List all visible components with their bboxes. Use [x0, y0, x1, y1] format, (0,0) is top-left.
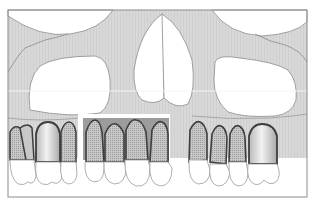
tooth-right-molar: [248, 124, 280, 185]
tooth-left-premolar-2: [61, 122, 77, 184]
dental-diagram: [0, 0, 323, 202]
tooth-right-2: [210, 126, 230, 186]
tooth-left-premolar-1: [36, 122, 62, 185]
tooth-right-1: [189, 122, 210, 184]
tooth-anterior-1: [85, 120, 104, 182]
tooth-anterior-2: [104, 124, 126, 184]
tooth-left-molar: [10, 125, 36, 185]
left-sinus: [29, 56, 110, 115]
tooth-right-3: [229, 126, 248, 186]
diagram-svg: [0, 0, 323, 202]
